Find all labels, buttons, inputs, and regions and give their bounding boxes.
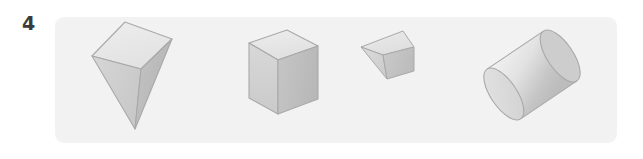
triangular-prism-drawing xyxy=(345,17,455,143)
shape-square-pyramid xyxy=(69,17,209,143)
cylinder-drawing xyxy=(475,17,605,143)
cylinder-group xyxy=(476,24,587,126)
question-figure-block: 4 xyxy=(0,0,643,159)
question-number: 4 xyxy=(22,14,35,33)
shape-triangular-prism xyxy=(345,17,455,143)
shape-cylinder xyxy=(475,17,605,143)
shape-cube xyxy=(215,17,335,143)
pyramid-left-face xyxy=(92,56,141,129)
cube-drawing xyxy=(215,17,335,143)
figure-panel xyxy=(55,17,617,143)
square-pyramid-drawing xyxy=(69,17,209,143)
